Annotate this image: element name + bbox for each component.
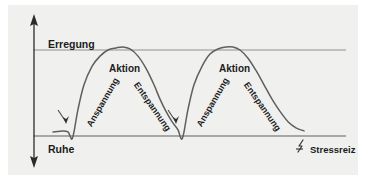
lightning-bolt-icon <box>296 140 303 152</box>
legend-label-stressreiz: Stressreiz <box>310 144 355 155</box>
axis-label-erregung: Erregung <box>48 38 95 50</box>
stress-curve-figure: Erregung Ruhe Stressreiz Anspannung Akti… <box>0 0 366 186</box>
axis-label-ruhe: Ruhe <box>48 143 74 155</box>
phase-label-aktion-2: Aktion <box>219 63 250 74</box>
phase-label-aktion-1: Aktion <box>109 63 140 74</box>
chart-panel: Erregung Ruhe Stressreiz Anspannung Akti… <box>8 5 358 175</box>
stimulus-marker-1 <box>58 110 69 124</box>
